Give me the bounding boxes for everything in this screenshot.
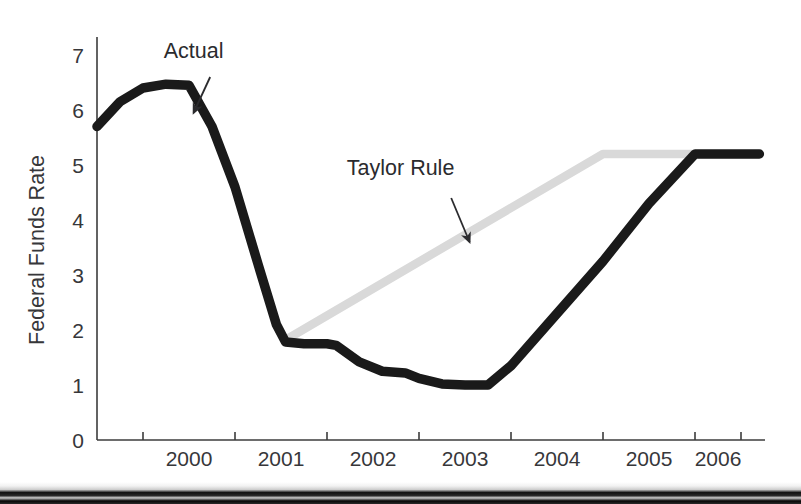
y-tick-label: 3 (72, 264, 84, 287)
scan-artifact-band (0, 482, 801, 504)
x-tick-label: 2005 (626, 447, 673, 470)
y-tick-label: 4 (72, 209, 84, 232)
taylor-rule-annotation-label: Taylor Rule (347, 156, 455, 180)
chart-figure: Federal Funds Rate 01234567 200020012002… (0, 0, 801, 504)
actual-annotation-label: Actual (164, 39, 224, 63)
y-tick-label: 1 (72, 374, 84, 397)
y-tick-label: 2 (72, 319, 84, 342)
federal-funds-rate-line-chart: Federal Funds Rate 01234567 200020012002… (0, 0, 801, 504)
chart-background (0, 0, 801, 504)
y-tick-label: 7 (72, 44, 84, 67)
x-tick-label: 2002 (350, 447, 397, 470)
y-axis-title-text: Federal Funds Rate (25, 155, 49, 345)
x-tick-label: 2003 (442, 447, 489, 470)
y-tick-label: 0 (72, 429, 84, 452)
y-tick-label: 5 (72, 154, 84, 177)
x-tick-label: 2001 (258, 447, 305, 470)
x-tick-label: 2004 (534, 447, 581, 470)
y-tick-label: 6 (72, 99, 84, 122)
x-tick-label: 2006 (695, 447, 742, 470)
x-tick-label: 2000 (166, 447, 213, 470)
y-axis-title: Federal Funds Rate (25, 155, 49, 345)
